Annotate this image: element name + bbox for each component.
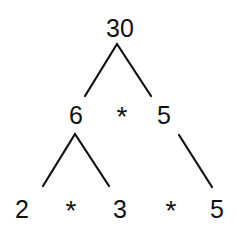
branch-6-to-2 — [43, 134, 75, 186]
root-node: 30 — [106, 16, 134, 41]
branch-30-to-6 — [85, 44, 117, 96]
multiply-operator: * — [117, 103, 128, 131]
node-2: 2 — [15, 197, 29, 222]
node-3: 3 — [113, 197, 127, 222]
multiply-operator: * — [66, 197, 77, 225]
factor-tree-diagram: 30 6 * 5 2 * 3 * 5 — [0, 0, 237, 232]
node-5-leaf: 5 — [210, 197, 224, 222]
branch-5-to-5 — [179, 135, 212, 187]
node-5: 5 — [157, 103, 171, 128]
branch-30-to-5 — [117, 44, 151, 96]
multiply-operator: * — [166, 197, 177, 225]
node-6: 6 — [69, 103, 83, 128]
branch-6-to-3 — [75, 134, 109, 186]
